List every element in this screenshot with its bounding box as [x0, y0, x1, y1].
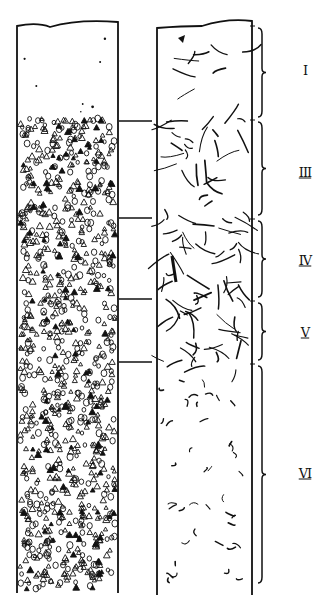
layer-label-6: VI — [299, 466, 312, 481]
layer-label-5: V — [301, 325, 309, 340]
layer-label-4: IV — [299, 253, 312, 268]
left-column-particles — [17, 21, 118, 593]
tie-lines — [119, 121, 152, 362]
layer-label-3: III — [299, 165, 311, 180]
layer-label-1: I — [303, 63, 307, 78]
right-column-fibres — [149, 20, 262, 595]
strata-figure — [0, 0, 326, 604]
